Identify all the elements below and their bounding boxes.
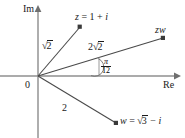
modulus-label-z-radicand: 2 [47, 40, 53, 51]
modulus-label-w: 2 [62, 103, 67, 113]
point-label-z-eq: = 1 + [79, 11, 105, 22]
point-label-z-unit: i [105, 11, 108, 22]
point-label-zw: zw [155, 25, 166, 35]
argand-diagram-figure: Im Re 0 z = 1 + i zw √2 2 √2 2 π 12 w = … [0, 0, 185, 138]
point-label-w-eq: = [127, 115, 138, 126]
origin-label: 0 [25, 80, 30, 90]
real-axis-label: Re [163, 80, 174, 90]
point-label-w-tail: − [148, 115, 159, 126]
imaginary-axis-label: Im [23, 4, 34, 14]
modulus-label-zw: 2 √2 [88, 41, 104, 52]
angle-fraction: π 12 [101, 58, 111, 76]
vector-w [38, 76, 118, 125]
point-label-w: w = √3 − i [120, 115, 161, 126]
imaginary-axis [35, 5, 42, 138]
point-label-w-var: w [120, 115, 127, 126]
modulus-label-zw-radicand: 2 [98, 41, 104, 52]
modulus-label-z: √2 [42, 40, 53, 51]
point-label-w-radicand: 3 [142, 115, 148, 126]
point-label-w-unit: i [158, 115, 161, 126]
point-label-z: z = 1 + i [75, 12, 108, 22]
angle-denominator: 12 [101, 67, 111, 75]
